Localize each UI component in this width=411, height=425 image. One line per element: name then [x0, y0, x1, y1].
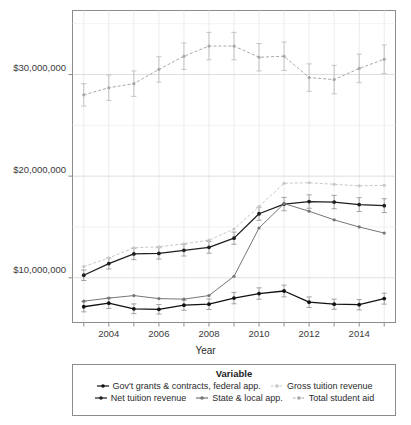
legend-item[interactable]: Gross tuition revenue: [270, 381, 373, 391]
legend-label: Total student aid: [309, 393, 375, 403]
y-tick-label: $10,000,000: [0, 265, 66, 275]
x-tick-label: 2006: [137, 329, 181, 339]
legend-row: Net tuition revenueState & local app.Tot…: [73, 393, 395, 403]
y-tick-label: $30,000,000: [0, 63, 66, 73]
x-tick-label: 2014: [337, 329, 381, 339]
chart-page: $30,000,000 $20,000,000 $10,000,000 2004…: [0, 0, 411, 425]
axis-ticks: [69, 75, 385, 327]
x-tick-label: 2008: [187, 329, 231, 339]
legend-item[interactable]: Gov't grants & contracts, federal app.: [96, 381, 261, 391]
legend-marker-icon: [94, 394, 108, 402]
legend-label: State & local app.: [212, 393, 283, 403]
x-axis-title: Year: [0, 345, 411, 356]
y-tick-label: $20,000,000: [0, 165, 66, 175]
legend-item[interactable]: Total student aid: [292, 393, 375, 403]
legend-rows: Gov't grants & contracts, federal app.Gr…: [73, 381, 395, 403]
x-tick-label: 2012: [287, 329, 331, 339]
legend-marker-icon: [195, 394, 209, 402]
legend-item[interactable]: Net tuition revenue: [94, 393, 187, 403]
legend-label: Gov't grants & contracts, federal app.: [113, 381, 261, 391]
legend-label: Net tuition revenue: [111, 393, 187, 403]
legend-item[interactable]: State & local app.: [195, 393, 283, 403]
x-tick-label: 2004: [87, 329, 131, 339]
legend-marker-icon: [96, 382, 110, 390]
legend-marker-icon: [270, 382, 284, 390]
legend-row: Gov't grants & contracts, federal app.Gr…: [73, 381, 395, 391]
chart-legend: Variable Gov't grants & contracts, feder…: [72, 364, 396, 416]
legend-label: Gross tuition revenue: [287, 381, 373, 391]
x-tick-label: 2010: [237, 329, 281, 339]
legend-title: Variable: [73, 368, 395, 379]
legend-marker-icon: [292, 394, 306, 402]
